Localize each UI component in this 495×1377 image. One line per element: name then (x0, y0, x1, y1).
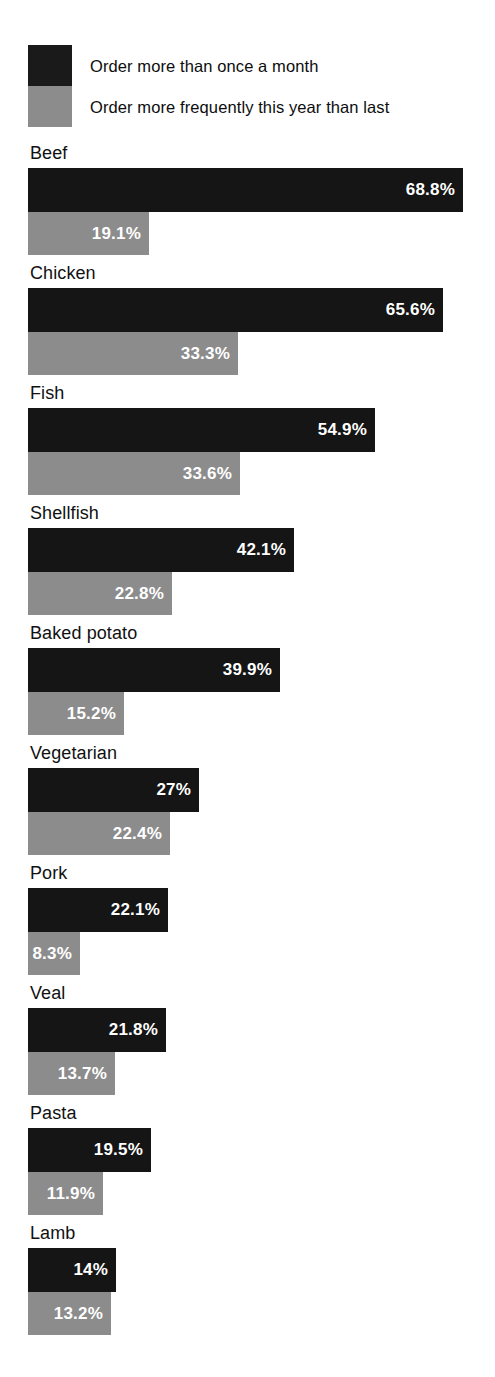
legend-label: Order more frequently this year than las… (90, 97, 389, 116)
bar-secondary: 19.1% (28, 212, 149, 255)
bar-value-label: 39.9% (223, 660, 272, 680)
chart-legend: Order more than once a month Order more … (28, 45, 468, 127)
bar-value-label: 65.6% (386, 300, 435, 320)
bar-primary: 54.9% (28, 408, 375, 452)
bar-value-label: 22.1% (111, 900, 160, 920)
category-label: Chicken (30, 263, 96, 284)
bar-secondary: 22.8% (28, 572, 172, 615)
bar-secondary: 8.3% (28, 932, 80, 975)
bar-value-label: 14% (73, 1260, 108, 1280)
bar-secondary: 15.2% (28, 692, 124, 735)
bar-value-label: 33.6% (183, 464, 232, 484)
bar-secondary: 33.3% (28, 332, 238, 375)
category-label: Veal (30, 983, 65, 1004)
bar-value-label: 22.4% (113, 824, 162, 844)
bar-group: Pork22.1%8.3% (0, 863, 495, 983)
legend-swatch-dark (28, 45, 72, 86)
bar-value-label: 21.8% (109, 1020, 158, 1040)
bar-value-label: 27% (156, 780, 191, 800)
category-label: Pork (30, 863, 67, 884)
legend-label: Order more than once a month (90, 56, 318, 75)
bar-value-label: 33.3% (181, 344, 230, 364)
bar-track: 54.9%33.6% (28, 408, 375, 495)
bar-primary: 39.9% (28, 648, 280, 692)
category-label: Beef (30, 143, 67, 164)
bar-group: Veal21.8%13.7% (0, 983, 495, 1103)
bar-group: Shellfish42.1%22.8% (0, 503, 495, 623)
bar-secondary: 11.9% (28, 1172, 103, 1215)
bar-value-label: 8.3% (32, 944, 72, 964)
bar-group: Chicken65.6%33.3% (0, 263, 495, 383)
legend-item-order-more-frequently-this-year: Order more frequently this year than las… (28, 86, 468, 127)
bar-value-label: 68.8% (406, 180, 455, 200)
legend-swatch-gray (28, 86, 72, 127)
bar-track: 14%13.2% (28, 1248, 116, 1335)
legend-item-order-more-than-once-a-month: Order more than once a month (28, 45, 468, 86)
bar-secondary: 13.7% (28, 1052, 115, 1095)
bar-primary: 14% (28, 1248, 116, 1292)
bar-primary: 42.1% (28, 528, 294, 572)
bar-chart: Order more than once a month Order more … (0, 0, 495, 1377)
bar-primary: 22.1% (28, 888, 168, 932)
bar-group: Beef68.8%19.1% (0, 143, 495, 263)
bar-primary: 68.8% (28, 168, 463, 212)
category-label: Vegetarian (30, 743, 117, 764)
bar-secondary: 13.2% (28, 1292, 111, 1335)
bar-track: 68.8%19.1% (28, 168, 463, 255)
bar-secondary: 33.6% (28, 452, 240, 495)
bar-group: Baked potato39.9%15.2% (0, 623, 495, 743)
bar-value-label: 13.2% (54, 1304, 103, 1324)
bar-value-label: 42.1% (237, 540, 286, 560)
bar-track: 27%22.4% (28, 768, 199, 855)
bar-group: Lamb14%13.2% (0, 1223, 495, 1343)
bar-group: Vegetarian27%22.4% (0, 743, 495, 863)
bar-primary: 19.5% (28, 1128, 151, 1172)
category-label: Pasta (30, 1103, 77, 1124)
bar-group: Pasta19.5%11.9% (0, 1103, 495, 1223)
bar-track: 19.5%11.9% (28, 1128, 151, 1215)
bar-value-label: 11.9% (47, 1184, 95, 1204)
bar-track: 22.1%8.3% (28, 888, 168, 975)
bar-primary: 27% (28, 768, 199, 812)
bar-track: 39.9%15.2% (28, 648, 280, 735)
bar-value-label: 13.7% (58, 1064, 107, 1084)
bar-value-label: 22.8% (115, 584, 164, 604)
bar-group: Fish54.9%33.6% (0, 383, 495, 503)
bar-primary: 65.6% (28, 288, 443, 332)
bar-value-label: 19.5% (94, 1140, 143, 1160)
bar-track: 65.6%33.3% (28, 288, 443, 375)
category-label: Fish (30, 383, 64, 404)
bar-value-label: 54.9% (318, 420, 367, 440)
bar-groups: Beef68.8%19.1%Chicken65.6%33.3%Fish54.9%… (0, 143, 495, 1343)
bar-secondary: 22.4% (28, 812, 170, 855)
bar-value-label: 15.2% (67, 704, 116, 724)
category-label: Shellfish (30, 503, 99, 524)
category-label: Lamb (30, 1223, 75, 1244)
bar-track: 21.8%13.7% (28, 1008, 166, 1095)
category-label: Baked potato (30, 623, 137, 644)
bar-track: 42.1%22.8% (28, 528, 294, 615)
bar-primary: 21.8% (28, 1008, 166, 1052)
bar-value-label: 19.1% (92, 224, 141, 244)
